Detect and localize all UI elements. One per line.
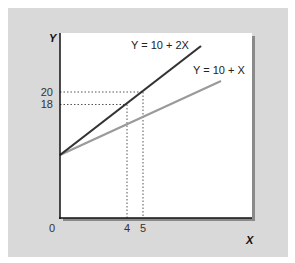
chart-figure: Y X 20 18 0 4 5 Y = 10 + 2X Y = 10 + X — [0, 0, 295, 263]
tick-label-20: 20 — [41, 86, 53, 98]
x-axis-label: X — [245, 234, 254, 246]
plot-area — [60, 33, 252, 218]
origin-label: 0 — [49, 222, 55, 234]
tick-label-4: 4 — [124, 222, 130, 234]
equation-label-steep: Y = 10 + 2X — [131, 39, 190, 51]
tick-label-5: 5 — [140, 222, 146, 234]
tick-label-18: 18 — [41, 98, 53, 110]
equation-label-shallow: Y = 10 + X — [193, 64, 245, 76]
